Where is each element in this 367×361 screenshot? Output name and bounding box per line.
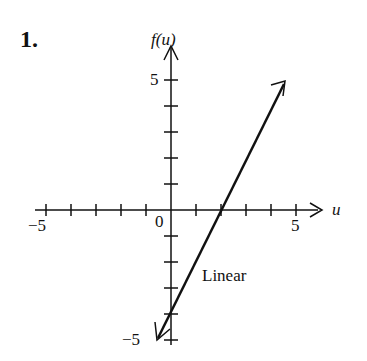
y-axis-label: f(u) — [151, 30, 176, 50]
x-tick-label-5: 5 — [291, 216, 300, 236]
x-axis-label: u — [332, 200, 341, 220]
y-tick-label-neg5: −5 — [122, 330, 140, 350]
y-tick-label-5: 5 — [150, 70, 159, 90]
origin-label: 0 — [155, 212, 164, 232]
x-tick-label-neg5: −5 — [28, 216, 46, 236]
series-label-linear: Linear — [202, 266, 246, 286]
plot-area — [0, 0, 367, 361]
linear-line — [158, 84, 284, 338]
chart: 1. f(u) u −5 0 5 5 −5 Linear — [0, 0, 367, 361]
